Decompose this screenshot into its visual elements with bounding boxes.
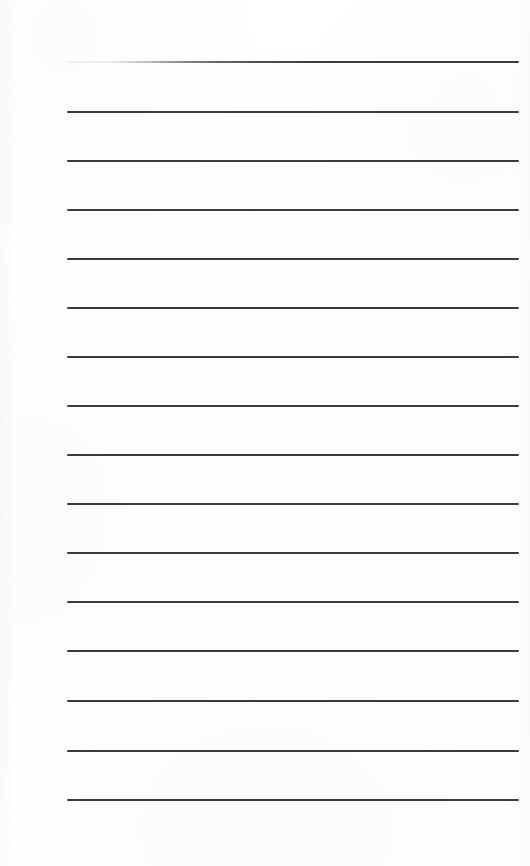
rule-line <box>67 503 519 505</box>
notepad-page <box>0 0 530 866</box>
rule-line <box>67 700 519 702</box>
rule-line <box>67 405 519 407</box>
rule-line <box>67 552 519 554</box>
paper-texture <box>0 0 530 866</box>
left-edge-shadow <box>0 0 16 866</box>
rule-line <box>67 61 519 63</box>
rule-line <box>67 454 519 456</box>
rule-line <box>67 258 519 260</box>
rule-line <box>67 209 519 211</box>
right-edge-shadow <box>516 0 530 866</box>
rule-line <box>67 356 519 358</box>
rule-line <box>67 160 519 162</box>
rule-line <box>67 307 519 309</box>
rule-line <box>67 799 519 801</box>
rule-line <box>67 111 519 113</box>
rule-line <box>67 650 519 652</box>
rule-line <box>67 601 519 603</box>
rule-line <box>67 750 519 752</box>
